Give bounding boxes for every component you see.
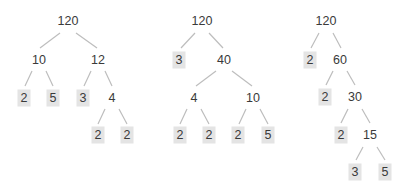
tree-edge	[356, 147, 363, 160]
prime-leaf-node: 2	[174, 127, 187, 144]
prime-leaf-node: 2	[232, 127, 245, 144]
factor-node: 15	[363, 127, 377, 143]
tree-edge	[311, 33, 319, 48]
prime-leaf-node: 3	[349, 164, 362, 181]
tree-edge	[180, 109, 187, 124]
prime-leaf-node: 2	[121, 127, 134, 144]
tree-edge	[347, 71, 355, 85]
tree-edge	[46, 71, 53, 86]
tree-edge	[341, 109, 348, 123]
prime-leaf-node: 3	[77, 90, 90, 107]
tree-edge	[377, 147, 385, 160]
prime-leaf-node: 5	[47, 90, 60, 107]
prime-leaf-node: 2	[319, 89, 332, 106]
prime-leaf-node: 2	[203, 127, 216, 144]
factor-node: 12	[91, 52, 105, 68]
prime-leaf-node: 2	[18, 90, 31, 107]
tree-edge	[201, 109, 209, 124]
factor-node: 60	[333, 52, 347, 68]
factor-node: 10	[246, 90, 260, 106]
factor-node: 120	[58, 13, 79, 29]
prime-leaf-node: 3	[173, 52, 186, 69]
tree-edge	[362, 109, 370, 123]
tree-edge	[209, 33, 223, 48]
prime-leaf-node: 5	[379, 164, 392, 181]
factor-node: 10	[32, 52, 46, 68]
tree-edge	[181, 33, 195, 48]
tree-edge	[239, 109, 246, 124]
tree-edge	[105, 71, 112, 86]
factor-node: 4	[191, 90, 198, 106]
prime-leaf-node: 2	[335, 127, 348, 144]
prime-leaf-node: 2	[92, 127, 105, 144]
tree-edge	[25, 71, 32, 86]
tree-edge	[333, 33, 341, 48]
tree-edge	[232, 71, 252, 86]
factor-node: 4	[109, 90, 116, 106]
tree-edge	[84, 71, 91, 86]
factor-tree-diagram: 1201012253422120340410222512026023021535	[0, 0, 408, 188]
tree-edge	[119, 109, 127, 124]
tree-edge	[76, 33, 97, 48]
prime-leaf-node: 5	[262, 127, 275, 144]
tree-edge	[196, 71, 216, 86]
factor-node: 120	[192, 13, 213, 29]
factor-node: 120	[316, 13, 337, 29]
prime-leaf-node: 2	[304, 52, 317, 69]
tree-edge	[326, 71, 333, 85]
tree-edge	[260, 109, 268, 124]
tree-edge	[40, 33, 60, 48]
factor-node: 30	[348, 89, 362, 105]
tree-edge	[98, 109, 105, 124]
factor-node: 40	[217, 52, 231, 68]
